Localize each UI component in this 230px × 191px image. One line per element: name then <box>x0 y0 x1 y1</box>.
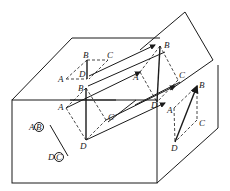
label-side-d: D <box>170 143 178 153</box>
label-top-d: D <box>78 69 86 79</box>
front-projection: B A C D <box>57 83 116 151</box>
label-side-c: C <box>199 118 206 128</box>
label-front-d: D <box>47 152 55 162</box>
label-mid-d: D <box>79 141 87 151</box>
top-projection: B C A D <box>57 50 114 84</box>
label-inc-c: C <box>179 70 186 80</box>
label-front-b: B <box>36 122 42 132</box>
label-front-c: C <box>56 152 63 162</box>
label-side-a: A <box>166 105 173 115</box>
label-side-b: B <box>199 80 205 90</box>
label-top-b: B <box>83 50 89 60</box>
label-inc-b: B <box>164 40 170 50</box>
label-mid-b: B <box>78 83 84 93</box>
label-top-a: A <box>57 74 64 84</box>
label-top-c: C <box>107 50 114 60</box>
label-mid-a: A <box>57 102 64 112</box>
projection-diagram: B C A D B A C D B A C D <box>0 0 230 191</box>
edge-view: A B D C <box>28 122 68 162</box>
label-inc-d: D <box>150 100 158 110</box>
label-inc-a: A <box>132 72 139 82</box>
diagram-canvas: B C A D B A C D B A C D <box>0 0 230 191</box>
side-projection: B A C D <box>166 80 206 153</box>
label-front-a: A <box>28 122 35 132</box>
